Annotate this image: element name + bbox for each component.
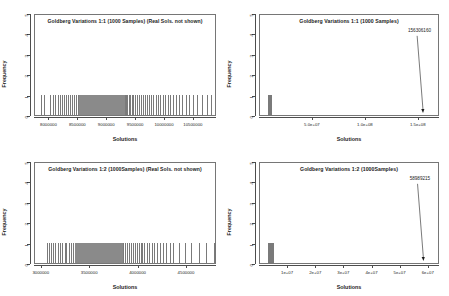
x-axis-line — [259, 117, 439, 118]
histogram-bar — [202, 95, 203, 115]
histogram-bar — [129, 243, 130, 263]
outlier-annotation-label: 156306160 — [408, 28, 431, 33]
x-tick-label: 3500000 — [81, 270, 98, 275]
histogram-bar — [133, 243, 134, 263]
x-tick — [428, 265, 429, 268]
histogram-bar — [144, 243, 145, 263]
histogram-bar — [137, 243, 138, 263]
x-tick — [77, 117, 78, 120]
y-tick-label: 3 — [24, 203, 29, 205]
histogram-bar — [53, 243, 54, 263]
histogram-bar — [72, 95, 73, 115]
y-tick-label: 5 — [249, 14, 254, 16]
histogram-bar — [206, 243, 207, 263]
panel-bottom-left: Frequency 012345 Goldberg Variations 1:2… — [0, 148, 225, 296]
histogram-bar — [139, 95, 140, 115]
histogram-bar — [170, 95, 171, 115]
histogram-bar — [125, 243, 126, 263]
histogram-bar — [55, 243, 56, 263]
histogram-bar — [135, 243, 136, 263]
plot-area: Goldberg Variations 1:2 (1000Samples) (R… — [34, 162, 216, 264]
histogram-bar — [47, 243, 48, 263]
y-axis: 012345 — [255, 162, 256, 264]
x-tick-label: 10500000 — [183, 122, 202, 127]
histogram-bar — [163, 243, 164, 263]
histogram-bar — [211, 95, 212, 115]
y-tick-label: 1 — [249, 244, 254, 246]
y-axis-line — [30, 14, 31, 116]
histogram-bar — [147, 243, 148, 263]
x-tick-label: 9000000 — [98, 122, 115, 127]
histogram-bar — [69, 243, 70, 263]
panel-bottom-right: Frequency 012345 Goldberg Variations 1:2… — [225, 148, 449, 296]
x-tick-label: 4e+07 — [365, 270, 377, 275]
outlier-annotation-label: 58989215 — [410, 176, 430, 181]
x-tick-label: 8500000 — [69, 122, 86, 127]
histogram-bar — [193, 95, 194, 115]
y-tick-label: 2 — [24, 75, 29, 77]
histogram-bar — [168, 95, 169, 115]
x-axis-title: Solutions — [259, 284, 439, 290]
y-axis-line — [30, 162, 31, 264]
histogram-bar — [157, 243, 158, 263]
y-axis-title: Frequency — [1, 209, 7, 236]
histogram-bar — [185, 243, 186, 263]
histogram-bar — [142, 243, 143, 263]
figure-grid: Frequency 012345 Goldberg Variations 1:1… — [0, 0, 449, 296]
y-axis-title: Frequency — [226, 209, 232, 236]
histogram-bar — [176, 95, 177, 115]
x-tick-label: 1.5e+08 — [410, 122, 426, 127]
y-axis: 012345 — [30, 14, 31, 116]
histogram-bar — [137, 95, 138, 115]
histogram-bar — [152, 243, 153, 263]
x-tick — [287, 265, 288, 268]
y-tick-label: 0 — [24, 116, 29, 118]
histogram-bar — [76, 95, 77, 115]
histogram-bar — [71, 243, 72, 263]
x-tick — [48, 117, 49, 120]
panel-top-right: Frequency 012345 Goldberg Variations 1:1… — [225, 0, 449, 148]
x-tick-label: 4500000 — [178, 270, 195, 275]
histogram-bar — [170, 243, 171, 263]
x-axis: 8000000850000090000009500000100000001050… — [34, 117, 216, 118]
histogram-bar — [160, 95, 161, 115]
x-tick — [343, 265, 344, 268]
histogram-bar — [199, 243, 200, 263]
histogram-bar — [149, 95, 150, 115]
x-tick — [106, 117, 107, 120]
histogram-bar — [66, 243, 67, 263]
y-tick-label: 4 — [249, 182, 254, 184]
histogram-bar — [191, 243, 192, 263]
histogram-bar — [73, 243, 74, 263]
x-tick — [89, 265, 90, 268]
histogram-bar — [139, 243, 140, 263]
x-tick-label: 3000000 — [32, 270, 49, 275]
histogram-bar — [156, 95, 157, 115]
x-axis-line — [34, 117, 216, 118]
histogram-bar — [49, 243, 50, 263]
histogram-bar — [166, 243, 167, 263]
histogram-bar — [44, 95, 45, 115]
x-tick-label: 1.0e+08 — [357, 122, 373, 127]
plot-area: Goldberg Variations 1:1 (1000 Samples) (… — [34, 14, 216, 116]
histogram-bar — [41, 95, 42, 115]
histogram-bar — [62, 243, 63, 263]
x-axis-title: Solutions — [259, 136, 439, 142]
histogram-bar — [163, 95, 164, 115]
x-axis: 5.0e+071.0e+081.5e+08 — [259, 117, 439, 118]
plot-area: Goldberg Variations 1:1 (1000 Samples) 1… — [259, 14, 439, 116]
histogram-bar — [186, 95, 187, 115]
histogram-bar — [64, 95, 65, 115]
histogram-bar — [165, 95, 166, 115]
histogram-bar — [145, 95, 146, 115]
x-axis-title: Solutions — [34, 284, 216, 290]
y-tick-label: 3 — [24, 55, 29, 57]
x-tick — [135, 117, 136, 120]
x-axis-title: Solutions — [34, 136, 216, 142]
x-tick-label: 6e+07 — [422, 270, 434, 275]
x-tick — [193, 117, 194, 120]
x-tick — [315, 265, 316, 268]
histogram-bar — [62, 95, 63, 115]
histogram-dense-region — [75, 243, 123, 263]
histogram-bar — [189, 95, 190, 115]
